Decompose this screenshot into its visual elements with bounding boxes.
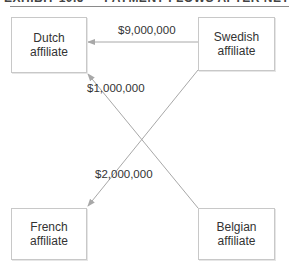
node-label: Swedish bbox=[214, 30, 259, 44]
node-belgian-affiliate: Belgianaffiliate bbox=[198, 208, 275, 260]
node-french-affiliate: Frenchaffiliate bbox=[11, 208, 87, 260]
flow-amount-belgian-dutch: $1,000,000 bbox=[87, 82, 145, 94]
node-label: affiliate bbox=[218, 234, 256, 248]
node-label: affiliate bbox=[218, 44, 256, 58]
node-label: French bbox=[30, 220, 67, 234]
flow-belgian-to-dutch bbox=[88, 74, 198, 208]
node-label: affiliate bbox=[30, 45, 68, 59]
node-label: affiliate bbox=[30, 234, 68, 248]
node-label: Dutch bbox=[33, 31, 64, 45]
flow-amount-swedish-dutch: $9,000,000 bbox=[118, 24, 176, 36]
flow-amount-swedish-french: $2,000,000 bbox=[95, 168, 153, 180]
node-dutch-affiliate: Dutchaffiliate bbox=[11, 17, 87, 73]
node-swedish-affiliate: Swedishaffiliate bbox=[198, 17, 275, 71]
node-label: Belgian bbox=[216, 220, 256, 234]
